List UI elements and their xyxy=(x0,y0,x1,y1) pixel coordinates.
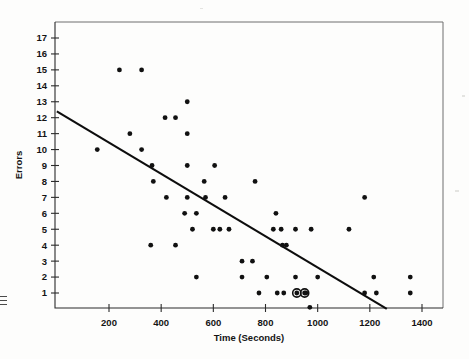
data-point xyxy=(185,163,190,168)
data-point xyxy=(150,163,155,168)
data-point xyxy=(185,99,190,104)
y-axis-tick-label: 7 xyxy=(42,192,47,203)
scatter-chart: 1234567891011121314151617 20040060080010… xyxy=(0,0,469,359)
y-axis-ticks: 1234567891011121314151617 xyxy=(36,32,59,298)
data-point xyxy=(315,275,320,280)
y-axis-tick-label: 2 xyxy=(42,271,47,282)
data-point xyxy=(211,227,216,232)
data-point xyxy=(293,275,298,280)
data-point xyxy=(117,67,122,72)
y-axis-tick-label: 9 xyxy=(42,160,47,171)
y-axis-tick-label: 17 xyxy=(36,32,47,43)
data-point xyxy=(203,195,208,200)
data-point xyxy=(164,195,169,200)
data-point xyxy=(139,67,144,72)
data-point xyxy=(257,291,262,296)
x-axis-tick-label: 200 xyxy=(101,317,117,328)
y-axis-tick-label: 14 xyxy=(36,80,47,91)
data-point xyxy=(223,195,228,200)
data-point xyxy=(294,291,299,296)
data-point xyxy=(271,227,276,232)
data-point xyxy=(347,227,352,232)
data-point xyxy=(139,147,144,152)
data-point xyxy=(190,227,195,232)
data-point xyxy=(279,227,284,232)
x-axis-tick-label: 1400 xyxy=(411,317,432,328)
y-axis-tick-label: 8 xyxy=(42,176,47,187)
data-point xyxy=(281,291,286,296)
data-point xyxy=(362,195,367,200)
data-point xyxy=(127,131,132,136)
data-point xyxy=(194,275,199,280)
y-axis-tick-label: 13 xyxy=(36,96,47,107)
x-axis-tick-label: 1000 xyxy=(307,317,328,328)
data-points xyxy=(95,67,413,309)
data-point xyxy=(302,291,307,296)
data-point xyxy=(148,243,153,248)
y-axis-tick-label: 11 xyxy=(37,128,48,139)
data-point xyxy=(408,275,413,280)
data-point xyxy=(212,163,217,168)
data-point xyxy=(362,291,367,296)
data-point xyxy=(240,259,245,264)
data-point xyxy=(185,131,190,136)
x-axis-tick-label: 600 xyxy=(205,317,221,328)
y-axis-tick-label: 4 xyxy=(42,240,48,251)
plot-canvas: 1234567891011121314151617 20040060080010… xyxy=(0,0,469,359)
data-point xyxy=(274,211,279,216)
data-point xyxy=(264,275,269,280)
trend-line xyxy=(57,111,387,309)
plot-frame xyxy=(55,22,443,308)
data-point xyxy=(275,291,280,296)
data-point xyxy=(95,147,100,152)
y-axis-tick-label: 15 xyxy=(36,64,47,75)
y-axis-tick-label: 12 xyxy=(36,112,47,123)
y-axis-tick-label: 3 xyxy=(42,256,47,267)
data-point xyxy=(240,275,245,280)
y-axis-tick-label: 1 xyxy=(42,287,48,298)
data-point xyxy=(194,211,199,216)
data-point xyxy=(371,275,376,280)
data-point xyxy=(163,115,168,120)
data-point xyxy=(250,259,255,264)
x-axis-title: Time (Seconds) xyxy=(214,332,285,343)
y-axis-tick-label: 5 xyxy=(42,224,48,235)
data-point xyxy=(293,227,298,232)
data-point xyxy=(307,305,312,310)
highlighted-data-points xyxy=(293,289,309,297)
data-point xyxy=(202,179,207,184)
y-axis-tick-label: 16 xyxy=(36,48,47,59)
y-axis-tick-label: 10 xyxy=(36,144,47,155)
x-axis-tick-label: 400 xyxy=(153,317,169,328)
x-axis-tick-label: 800 xyxy=(258,317,274,328)
y-axis-title: Errors xyxy=(13,151,24,180)
data-point xyxy=(309,227,314,232)
data-point xyxy=(284,243,289,248)
data-point xyxy=(182,211,187,216)
data-point xyxy=(227,227,232,232)
y-axis-tick-label: 6 xyxy=(42,208,47,219)
data-point xyxy=(374,291,379,296)
data-point xyxy=(217,227,222,232)
data-point xyxy=(151,179,156,184)
x-axis-tick-label: 1200 xyxy=(359,317,380,328)
data-point xyxy=(173,243,178,248)
data-point xyxy=(173,115,178,120)
data-point xyxy=(408,291,413,296)
regression-line xyxy=(57,111,387,309)
data-point xyxy=(253,179,258,184)
data-point xyxy=(185,195,190,200)
